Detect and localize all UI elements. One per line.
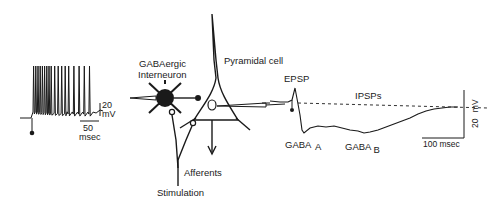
- interneuron-label-line2: Interneuron: [138, 69, 187, 80]
- voltage-scale-label-right: 20 mV: [470, 99, 480, 128]
- gaba-b-subscript: B: [374, 144, 380, 155]
- gaba-a-label: GABA A: [285, 139, 322, 152]
- excitatory-synapse-pyramidal: [190, 120, 195, 125]
- voltage-scale-unit-left: mV: [102, 109, 116, 119]
- afferent-fiber-to-pyramidal: [178, 126, 192, 160]
- stimulus-dot-right: [290, 108, 294, 112]
- gaba-a-text: GABA: [285, 139, 312, 150]
- interneuron-electrode: [130, 96, 156, 100]
- gaba-b-label: GABA B: [345, 141, 380, 155]
- inhibitory-synapse: [195, 95, 201, 101]
- voltage-scale-unit-right: mV: [470, 99, 480, 112]
- gaba-a-subscript: A: [315, 141, 322, 152]
- time-scale-unit-left: msec: [79, 132, 101, 142]
- spike-train-panel: 20 mV 50 msec: [20, 66, 116, 142]
- pyramidal-cell-label: Pyramidal cell: [224, 55, 283, 66]
- excitatory-synapse-interneuron: [169, 109, 174, 114]
- spike-train-trace: [20, 66, 103, 118]
- pyramidal-basal-dendrite-right: [236, 118, 250, 130]
- recording-electrode-tip: [266, 104, 285, 105]
- time-scale-label-right: 100 msec: [423, 139, 461, 149]
- voltage-scale-value-right: 20: [470, 118, 480, 128]
- stimulation-label: Stimulation: [157, 187, 204, 198]
- afferent-fiber-to-interneuron: [172, 115, 178, 168]
- baseline-dashed: [298, 103, 488, 108]
- afferents-label: Afferents: [184, 167, 222, 178]
- circuit-diagram: [130, 14, 285, 186]
- ipsps-label: IPSPs: [355, 90, 382, 101]
- interneuron-label-line1: GABAergic: [139, 58, 186, 69]
- spike-train-path: [20, 66, 103, 118]
- stimulus-dot-left: [30, 131, 35, 136]
- figure-canvas: 20 mV 50 msec GABAerg: [0, 0, 495, 204]
- gaba-b-text: GABA: [345, 141, 372, 152]
- epsp-label: EPSP: [284, 73, 309, 84]
